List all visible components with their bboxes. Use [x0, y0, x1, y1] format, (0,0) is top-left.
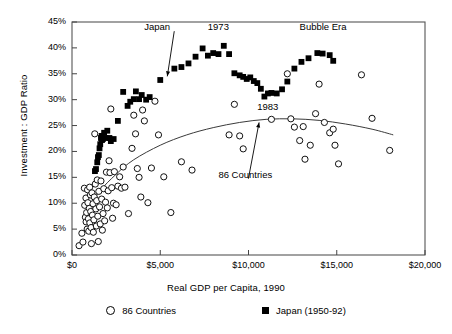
data-point-japan — [157, 77, 163, 83]
data-point-japan — [314, 50, 320, 56]
data-point-countries — [102, 218, 108, 224]
data-point-japan — [200, 46, 206, 52]
data-point-countries — [297, 137, 303, 143]
data-point-countries — [109, 185, 115, 191]
data-point-japan — [306, 55, 312, 61]
data-point-countries — [136, 174, 142, 180]
data-point-countries — [268, 116, 274, 122]
data-point-countries — [312, 111, 318, 117]
data-point-countries — [168, 209, 174, 215]
data-point-japan — [104, 128, 110, 134]
data-point-countries — [321, 119, 327, 125]
data-point-countries — [155, 132, 161, 138]
data-point-countries — [99, 227, 105, 233]
chart-annotation: 86 Countries — [218, 169, 272, 180]
data-point-countries — [284, 71, 290, 77]
data-point-countries — [145, 200, 151, 206]
data-point-countries — [88, 241, 94, 247]
y-tick-label: 20% — [34, 145, 66, 155]
data-point-countries — [117, 174, 123, 180]
chart-annotation: Bubble Era — [300, 21, 347, 32]
data-point-countries — [231, 101, 237, 107]
data-point-japan — [131, 96, 137, 102]
data-point-countries — [240, 146, 246, 152]
x-tick-label: $15,000 — [297, 260, 377, 270]
data-point-japan — [94, 159, 100, 165]
y-tick-label: 15% — [34, 171, 66, 181]
data-point-japan — [299, 59, 305, 65]
data-point-countries — [98, 178, 104, 184]
y-tick-label: 30% — [34, 94, 66, 104]
data-point-countries — [125, 210, 131, 216]
data-point-japan — [96, 152, 102, 158]
y-axis-label: Investment : GDP Ratio — [18, 41, 29, 211]
data-point-countries — [113, 202, 119, 208]
data-point-japan — [205, 53, 211, 59]
legend-label-countries: 86 Countries — [122, 305, 176, 316]
data-point-japan — [179, 64, 185, 70]
data-point-japan — [330, 58, 336, 64]
data-point-japan — [111, 136, 117, 142]
open-circle-icon — [106, 306, 115, 315]
data-point-japan — [320, 51, 326, 57]
data-point-japan — [279, 86, 285, 92]
legend-item-countries: 86 Countries — [106, 305, 176, 316]
data-point-countries — [152, 98, 158, 104]
data-point-japan — [226, 51, 232, 57]
data-point-countries — [291, 124, 297, 130]
x-tick-label: $10,000 — [209, 260, 289, 270]
data-point-countries — [332, 142, 338, 148]
data-point-countries — [120, 164, 126, 170]
data-point-countries — [129, 145, 135, 151]
x-tick-label: $0 — [32, 260, 112, 270]
data-point-countries — [90, 229, 96, 235]
data-point-japan — [186, 61, 192, 67]
data-point-countries — [132, 131, 138, 137]
data-point-countries — [140, 107, 146, 113]
data-point-japan — [120, 89, 126, 95]
data-point-countries — [302, 156, 308, 162]
annotation-arrow-head — [166, 71, 170, 76]
data-point-countries — [79, 230, 85, 236]
x-axis-label: Real GDP per Capita, 1990 — [0, 282, 452, 293]
data-point-countries — [237, 133, 243, 139]
data-point-countries — [109, 215, 115, 221]
y-tick-label: 45% — [34, 16, 66, 26]
data-point-countries — [122, 184, 128, 190]
data-point-countries — [189, 167, 195, 173]
data-point-japan — [231, 70, 237, 76]
data-point-countries — [369, 115, 375, 121]
y-tick-label: 10% — [34, 197, 66, 207]
data-point-countries — [148, 165, 154, 171]
data-point-japan — [93, 166, 99, 172]
data-point-japan — [254, 80, 260, 86]
chart-annotation: Japan — [144, 21, 170, 32]
x-tick-label: $5,000 — [120, 260, 200, 270]
data-point-countries — [316, 81, 322, 87]
y-tick-label: 35% — [34, 68, 66, 78]
data-point-countries — [178, 159, 184, 165]
data-point-countries — [141, 118, 147, 124]
data-point-japan — [115, 118, 121, 124]
data-point-japan — [171, 66, 177, 72]
plot-frame — [72, 22, 425, 255]
filled-square-icon — [262, 307, 269, 314]
data-point-japan — [216, 51, 222, 57]
data-point-japan — [284, 79, 290, 85]
data-point-countries — [95, 238, 101, 244]
data-point-japan — [269, 90, 275, 96]
data-point-countries — [307, 142, 313, 148]
data-point-countries — [226, 132, 232, 138]
legend-label-japan: Japan (1950-92) — [276, 305, 346, 316]
data-point-countries — [161, 174, 167, 180]
y-tick-label: 40% — [34, 42, 66, 52]
data-point-countries — [80, 239, 86, 245]
chart-annotation: 1973 — [208, 21, 229, 32]
data-point-japan — [291, 66, 297, 72]
data-point-countries — [330, 126, 336, 132]
x-tick-label: $20,000 — [385, 260, 452, 270]
data-point-countries — [111, 169, 117, 175]
data-point-japan — [221, 43, 227, 49]
data-point-countries — [104, 205, 110, 211]
data-point-countries — [106, 158, 112, 164]
